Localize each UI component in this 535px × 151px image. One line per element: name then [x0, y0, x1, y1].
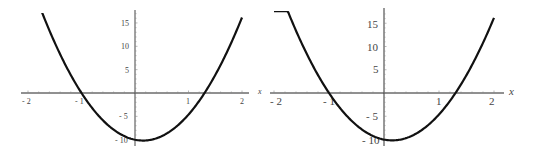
x-tick-label: - 1 [323, 95, 335, 107]
y-tick-label: - 5 [366, 110, 378, 122]
y-tick-label: 5 [373, 63, 379, 75]
plot-left: - 2 - 1 1 2 x 15 10 5 - 5 - 10 [0, 0, 268, 151]
plot-left-svg: - 2 - 1 1 2 x 15 10 5 - 5 - 10 [0, 0, 268, 151]
x-tick-label: - 2 [270, 95, 282, 107]
y-tick-label: 10 [367, 41, 379, 53]
x-tick-label: 1 [436, 95, 442, 107]
plot-right: - 2 - 1 1 2 x 15 10 5 - 5 - 10 [266, 0, 535, 151]
y-tick-label: 15 [121, 19, 129, 28]
y-tick-label: 15 [367, 18, 379, 30]
x-tick-label: - 1 [75, 97, 84, 106]
x-axis-label: x [508, 85, 514, 97]
y-tick-label: 5 [125, 66, 129, 75]
x-tick-label: - 2 [22, 97, 31, 106]
y-tick-label: - 5 [119, 112, 128, 121]
plot-right-svg: - 2 - 1 1 2 x 15 10 5 - 5 - 10 [266, 0, 535, 151]
x-tick-label: 2 [489, 95, 495, 107]
function-curve [34, 11, 242, 141]
x-tick-label: 2 [240, 97, 244, 106]
x-axis-label: x [257, 87, 262, 96]
y-tick-label: 10 [121, 42, 129, 51]
x-tick-label: 1 [186, 97, 190, 106]
